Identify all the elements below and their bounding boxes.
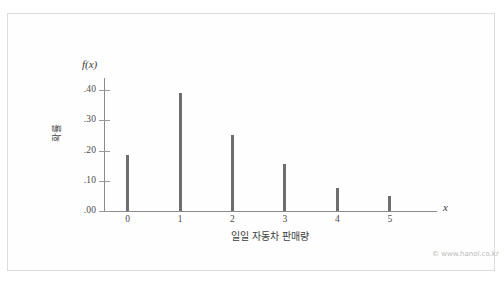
x-tick-label: 5 [380, 214, 400, 224]
x-axis-title: 일일 자동차 판매량 [180, 228, 360, 243]
x-variable-label: x [443, 201, 448, 213]
y-tick-mark [99, 211, 110, 212]
x-tick-label: 4 [327, 214, 347, 224]
y-tick-mark [99, 90, 110, 91]
y-tick-label-wrap: .30 [70, 114, 96, 126]
y-tick-label-wrap: .40 [70, 84, 96, 96]
bar-1 [179, 93, 182, 211]
y-tick-label: .20 [70, 145, 96, 155]
y-axis-title: 확률 [49, 113, 63, 153]
figure-page: f(x) x 일일 자동차 판매량 확률 .00.10.20.30.40 012… [0, 0, 504, 283]
y-tick-mark [99, 120, 110, 121]
y-tick-label: .40 [70, 84, 96, 94]
probability-distribution-chart: f(x) x 일일 자동차 판매량 확률 .00.10.20.30.40 012… [0, 0, 504, 283]
x-tick-label: 0 [118, 214, 138, 224]
y-tick-label: .10 [70, 175, 96, 185]
fx-axis-label: f(x) [82, 58, 97, 70]
watermark-text: © www.hanol.co.kr [432, 250, 499, 258]
y-tick-label-wrap: .20 [70, 145, 96, 157]
bar-2 [231, 135, 234, 211]
bar-3 [283, 164, 286, 211]
y-tick-label: .30 [70, 114, 96, 124]
y-axis-line [104, 78, 105, 212]
bar-4 [336, 188, 339, 211]
y-tick-label-wrap: .00 [70, 205, 96, 217]
x-tick-label: 2 [222, 214, 242, 224]
x-tick-label: 3 [275, 214, 295, 224]
bar-5 [388, 196, 391, 211]
y-tick-label-wrap: .10 [70, 175, 96, 187]
x-tick-label: 1 [170, 214, 190, 224]
y-tick-label: .00 [70, 205, 96, 215]
y-tick-mark [99, 151, 110, 152]
x-axis-line [104, 211, 437, 212]
y-tick-mark [99, 181, 110, 182]
bar-0 [126, 155, 129, 211]
